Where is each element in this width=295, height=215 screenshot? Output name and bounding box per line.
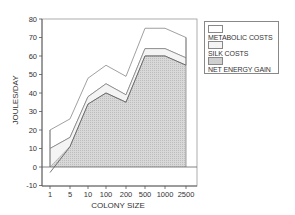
legend-swatch (208, 25, 223, 33)
svg-text:0: 0 (33, 163, 37, 172)
legend-swatch (208, 57, 223, 65)
legend-label: NET ENERGY GAIN (208, 66, 271, 73)
legend-label: SILK COSTS (208, 50, 248, 57)
svg-text:60: 60 (29, 52, 37, 61)
svg-text:2500: 2500 (178, 190, 195, 199)
svg-text:100: 100 (100, 190, 113, 199)
legend-item-net-energy-gain: NET ENERGY GAIN (208, 57, 271, 73)
plot-area (42, 19, 197, 186)
svg-text:-10: -10 (26, 181, 37, 190)
x-axis-label: COLONY SIZE (91, 201, 145, 210)
svg-text:10: 10 (84, 190, 92, 199)
svg-text:30: 30 (29, 107, 37, 116)
svg-text:70: 70 (29, 33, 37, 42)
svg-text:1000: 1000 (157, 190, 174, 199)
legend-item-metabolic-costs: METABOLIC COSTS (208, 25, 273, 41)
legend: METABOLIC COSTS SILK COSTS NET ENERGY GA… (204, 21, 279, 74)
svg-text:50: 50 (29, 70, 37, 79)
svg-text:80: 80 (29, 15, 37, 24)
legend-label: METABOLIC COSTS (208, 34, 273, 41)
svg-text:200: 200 (120, 190, 133, 199)
legend-swatch (208, 41, 223, 49)
svg-text:500: 500 (139, 190, 152, 199)
svg-text:20: 20 (29, 126, 37, 135)
legend-item-silk-costs: SILK COSTS (208, 41, 248, 57)
svg-text:10: 10 (29, 144, 37, 153)
y-axis-label: JOULES/DAY (11, 75, 20, 125)
svg-text:40: 40 (29, 89, 37, 98)
svg-text:1: 1 (48, 190, 52, 199)
svg-text:5: 5 (68, 190, 72, 199)
